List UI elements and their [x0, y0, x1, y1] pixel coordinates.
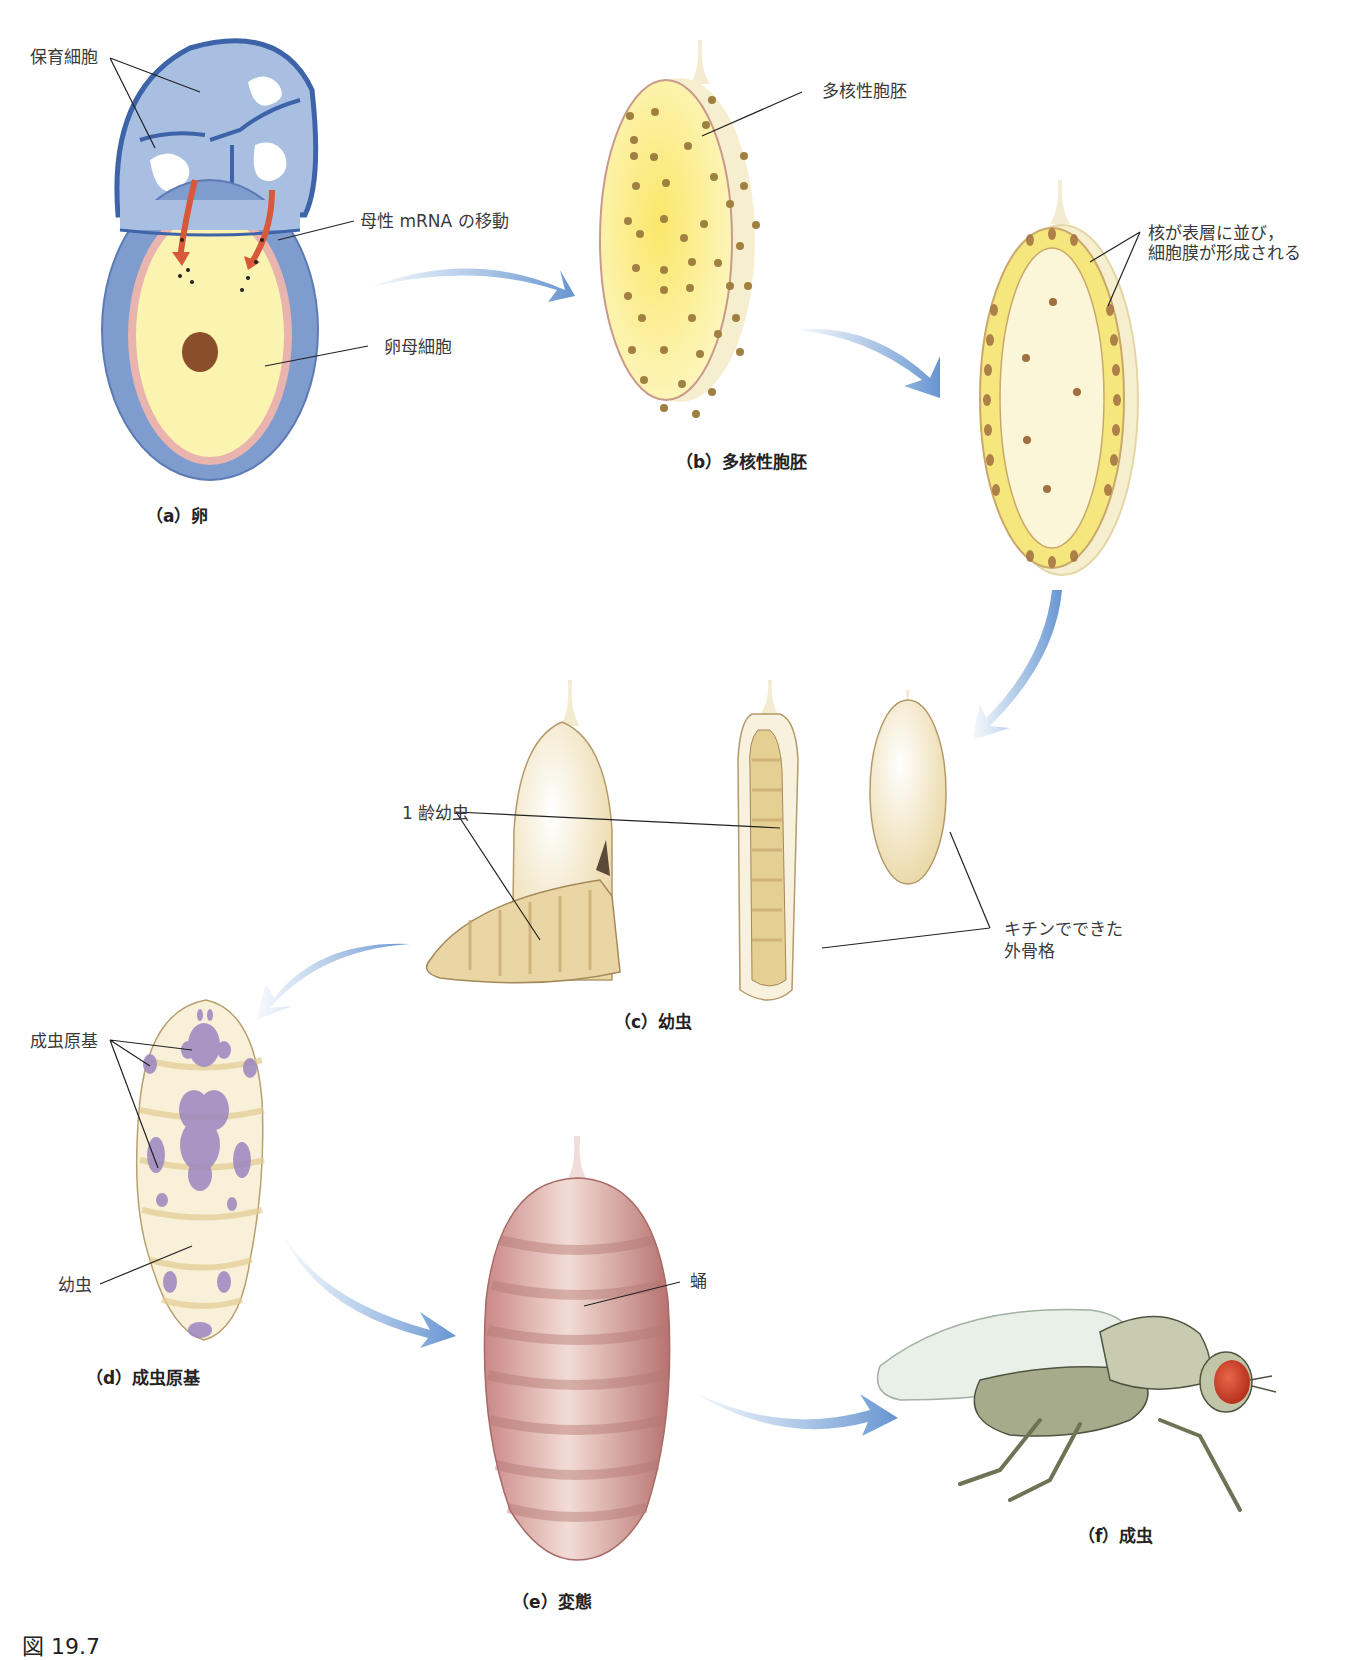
syncytial-blastoderm-illustration	[600, 40, 760, 418]
caption-a-egg: （a）卵	[146, 502, 208, 527]
imaginal-disc-larva-illustration	[137, 1000, 264, 1340]
caption-b-syncytial-blastoderm: （b）多核性胞胚	[676, 448, 807, 473]
stage-arrow-c-d	[256, 944, 410, 1020]
label-first-instar-larva: 1 齢幼虫	[402, 802, 469, 824]
label-oocyte: 卵母細胞	[384, 336, 452, 358]
label-cellularization-2: 細胞膜が形成される	[1148, 242, 1301, 264]
caption-e-metamorphosis: （e）変態	[512, 1588, 592, 1613]
label-pupa: 蛹	[690, 1270, 707, 1292]
label-maternal-mrna: 母性 mRNA の移動	[360, 210, 509, 232]
caption-c-larva: （c）幼虫	[614, 1008, 692, 1033]
label-cellularization-1: 核が表層に並び，	[1148, 222, 1284, 244]
label-chitin-2: 外骨格	[1004, 940, 1055, 962]
stage-arrow-d-e	[282, 1232, 456, 1348]
cellular-blastoderm-illustration	[980, 180, 1138, 575]
stage-arrow-b-cell	[796, 329, 940, 398]
label-imaginal-discs: 成虫原基	[30, 1030, 98, 1052]
stage-arrow-cell-c	[972, 590, 1062, 740]
caption-d-imaginal-discs: （d）成虫原基	[86, 1364, 200, 1389]
larva-hatching-illustration	[427, 680, 946, 1000]
pupa-illustration	[484, 1136, 669, 1560]
label-larva: 幼虫	[58, 1274, 92, 1296]
label-chitin-1: キチンでできた	[1004, 918, 1123, 940]
stage-arrow-e-f	[690, 1390, 898, 1436]
label-nurse-cells: 保育細胞	[30, 46, 98, 68]
adult-fly-illustration	[878, 1309, 1277, 1510]
figure-number: 図 19.7	[22, 1628, 100, 1660]
stage-arrow-a-b	[368, 268, 575, 302]
label-syncytial-blastoderm: 多核性胞胚	[822, 80, 907, 102]
caption-f-adult: （f）成虫	[1078, 1522, 1153, 1547]
